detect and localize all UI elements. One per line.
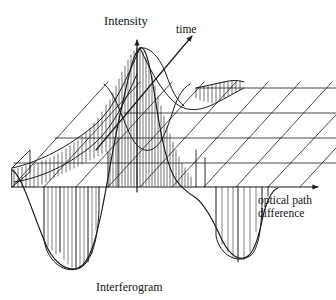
ripple-mid-walls: [108, 138, 205, 187]
axis-time: [96, 36, 192, 150]
axis-label-intensity: Intensity: [104, 14, 148, 28]
mesh-diagonal-lines: [12, 82, 336, 187]
axis-label-time: time: [176, 23, 196, 36]
opd-label-line1: optical path: [258, 194, 312, 206]
envelope-upper-left: [12, 48, 140, 182]
trough-right: [216, 187, 262, 262]
interferogram-figure: [0, 0, 336, 300]
mesh-horizontal-lines: [14, 88, 336, 163]
opd-label-line2: difference: [258, 207, 304, 219]
axis-label-optical-path-difference: optical pathdifference: [258, 194, 312, 220]
figure-caption: Interferogram: [96, 281, 163, 294]
